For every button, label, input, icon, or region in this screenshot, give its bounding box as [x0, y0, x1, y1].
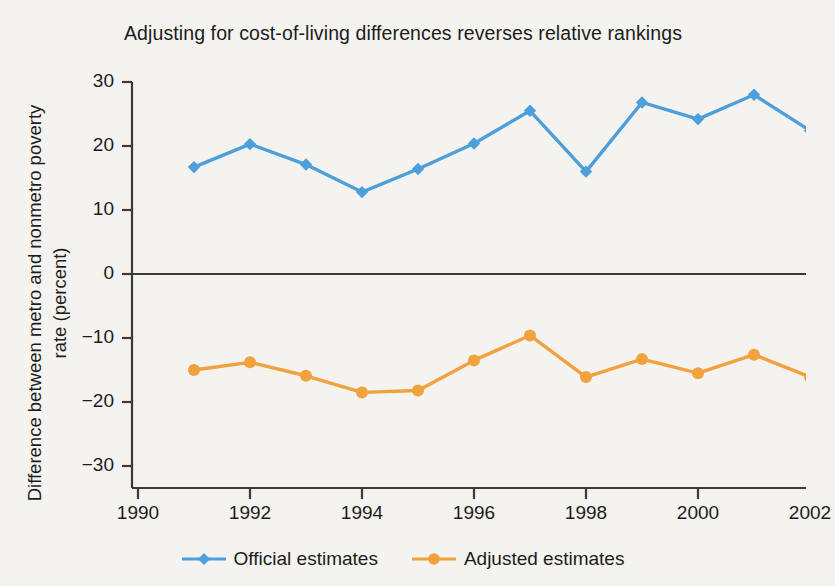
x-tick-label: 1998 — [546, 502, 626, 524]
data-point-marker — [188, 364, 200, 376]
data-point-marker — [356, 386, 368, 398]
data-series-group — [188, 89, 806, 399]
x-tick-label: 1996 — [434, 502, 514, 524]
data-point-marker — [300, 158, 312, 170]
series-official — [188, 89, 806, 199]
y-tick-label: 10 — [54, 198, 114, 220]
data-point-marker — [244, 138, 256, 150]
data-point-marker — [580, 371, 592, 383]
legend-item: Official estimates — [182, 548, 378, 570]
data-point-marker — [692, 367, 704, 379]
legend-label: Adjusted estimates — [464, 548, 625, 570]
legend-marker — [428, 553, 440, 565]
y-tick-label: 30 — [54, 70, 114, 92]
data-point-marker — [356, 186, 368, 198]
data-point-marker — [244, 356, 256, 368]
data-point-marker — [524, 329, 536, 341]
legend-marker — [198, 553, 210, 565]
data-point-marker — [412, 163, 424, 175]
y-tick-label: −20 — [54, 390, 114, 412]
data-point-marker — [692, 113, 704, 125]
data-point-marker — [412, 384, 424, 396]
x-tick-label: 1992 — [210, 502, 290, 524]
y-tick-label: −30 — [54, 454, 114, 476]
y-tick-label: −10 — [54, 326, 114, 348]
legend-label: Official estimates — [234, 548, 378, 570]
x-tick-label: 2002 — [770, 502, 835, 524]
axes — [122, 82, 806, 499]
data-point-marker — [636, 353, 648, 365]
x-tick-label: 2000 — [658, 502, 738, 524]
circle-marker — [412, 550, 456, 568]
series-line — [194, 335, 806, 392]
y-tick-label: 20 — [54, 134, 114, 156]
y-tick-label: 0 — [54, 262, 114, 284]
x-tick-label: 1994 — [322, 502, 402, 524]
chart-legend: Official estimatesAdjusted estimates — [0, 548, 806, 570]
data-point-marker — [748, 349, 760, 361]
legend-item: Adjusted estimates — [412, 548, 625, 570]
x-tick-label: 1990 — [98, 502, 178, 524]
data-point-marker — [300, 370, 312, 382]
data-point-marker — [804, 371, 806, 383]
data-point-marker — [188, 161, 200, 173]
series-line — [194, 95, 806, 192]
diamond-marker — [182, 550, 226, 568]
data-point-marker — [468, 354, 480, 366]
series-adjusted — [188, 329, 806, 398]
